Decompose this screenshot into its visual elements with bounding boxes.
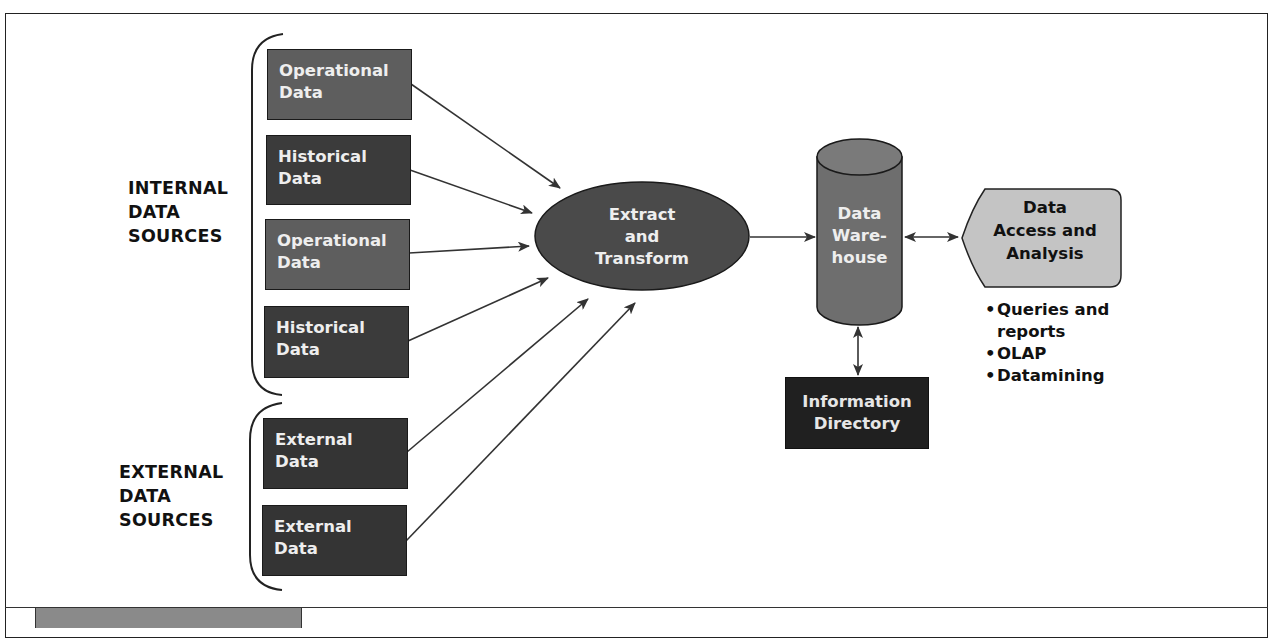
arrow-external-2-to-extract <box>406 303 635 541</box>
source-operational-data-1: Operational Data <box>267 49 412 120</box>
extract-transform-label: Extract and Transform <box>567 204 717 270</box>
external-sources-label: EXTERNAL DATA SOURCES <box>119 460 224 532</box>
arrow-historical-2-to-extract <box>408 278 548 341</box>
bullet-icon: • <box>985 299 997 321</box>
arrow-operational-2-to-extract <box>409 246 529 253</box>
arrow-historical-1-to-extract <box>410 170 532 213</box>
source-historical-data-1: Historical Data <box>266 135 411 205</box>
list-item: •Queries and reports <box>985 299 1109 343</box>
list-item: •OLAP <box>985 343 1109 365</box>
access-capabilities-list: •Queries and reports •OLAP •Datamining <box>985 299 1109 387</box>
source-external-data-1: External Data <box>263 418 408 489</box>
arrow-external-1-to-extract <box>407 299 588 452</box>
data-warehouse-label: Data Ware- house <box>817 203 902 269</box>
list-item: •Datamining <box>985 365 1109 387</box>
warehouse-cylinder-top <box>817 139 902 175</box>
source-historical-data-2: Historical Data <box>264 306 409 378</box>
arrow-operational-1-to-extract <box>411 84 560 188</box>
bullet-icon: • <box>985 365 997 387</box>
data-access-analysis-label: Data Access and Analysis <box>970 196 1120 265</box>
source-operational-data-2: Operational Data <box>265 219 410 290</box>
source-external-data-2: External Data <box>262 505 407 576</box>
bullet-icon: • <box>985 343 997 365</box>
information-directory-box: Information Directory <box>785 377 929 449</box>
internal-sources-label: INTERNAL DATA SOURCES <box>128 176 228 248</box>
